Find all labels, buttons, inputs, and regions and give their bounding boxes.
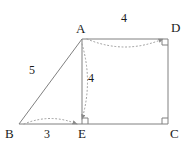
measure-arc-ad: [87, 39, 163, 47]
measure-arc-ae: [82, 44, 88, 119]
vertex-label-b: B: [5, 127, 14, 140]
geometry-figure: A B C D E 5 4 4 3: [0, 0, 191, 156]
measure-label-ae: 4: [88, 72, 94, 84]
right-angle-e-icon: [82, 118, 88, 124]
measure-arc-be: [24, 119, 77, 125]
right-angle-d-icon: [162, 39, 168, 45]
measure-label-be: 3: [44, 128, 50, 140]
vertex-label-c: C: [170, 127, 179, 140]
vertex-label-d: D: [171, 21, 180, 34]
right-angle-markers-group: [82, 39, 168, 124]
right-angle-c-icon: [162, 118, 168, 124]
measure-label-ab: 5: [29, 64, 35, 76]
measure-label-ad: 4: [121, 12, 127, 24]
vertex-label-e: E: [78, 127, 86, 140]
segment-ab: [19, 39, 82, 124]
vertex-label-a: A: [76, 22, 85, 35]
figure-canvas: [0, 0, 191, 156]
